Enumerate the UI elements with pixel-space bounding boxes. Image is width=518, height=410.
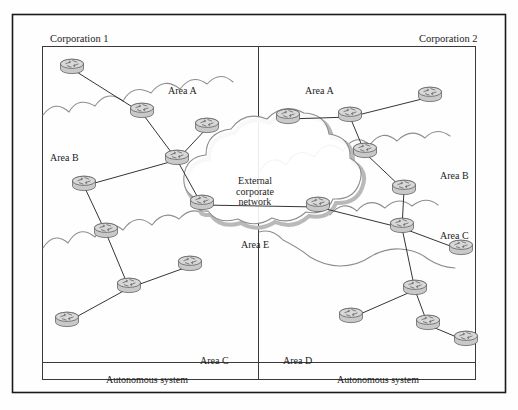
corporation-label-corp2: Corporation 2 xyxy=(419,33,478,44)
router-top xyxy=(340,308,363,317)
router-icon[interactable] xyxy=(61,59,84,73)
router-icon[interactable] xyxy=(277,109,300,123)
area-label-area-e: Area E xyxy=(241,239,269,250)
router-icon[interactable] xyxy=(340,308,363,322)
router-top xyxy=(419,87,442,96)
area-label-area-a-left: Area A xyxy=(168,85,197,96)
router-icon[interactable] xyxy=(131,103,154,117)
area-label-area-b-left: Area B xyxy=(50,152,79,163)
router-top xyxy=(391,218,414,227)
router-top xyxy=(61,59,84,68)
router-top xyxy=(196,118,219,127)
external-corporate-network-label: Externalcorporatenetwork xyxy=(236,176,274,208)
router-icon[interactable] xyxy=(391,218,414,232)
router-icon[interactable] xyxy=(455,331,478,345)
router-top xyxy=(56,312,79,321)
external-network-title-line: External xyxy=(236,176,274,187)
network-link xyxy=(350,97,430,117)
router-icon[interactable] xyxy=(419,87,442,101)
router-top xyxy=(73,176,96,185)
router-icon[interactable] xyxy=(73,176,96,190)
router-icon[interactable] xyxy=(191,195,214,209)
router-top xyxy=(277,109,300,118)
router-icon[interactable] xyxy=(307,197,330,211)
router-icon[interactable] xyxy=(393,180,416,194)
router-icon[interactable] xyxy=(118,278,141,292)
router-top xyxy=(393,180,416,189)
router-top xyxy=(404,280,427,289)
router-top xyxy=(455,331,478,340)
router-top xyxy=(166,150,189,159)
network-link xyxy=(318,207,402,228)
router-top xyxy=(131,103,154,112)
router-top xyxy=(417,315,440,324)
router-icon[interactable] xyxy=(179,256,202,270)
router-top xyxy=(307,197,330,206)
router-icon[interactable] xyxy=(56,312,79,326)
router-top xyxy=(339,107,362,116)
router-top xyxy=(354,143,377,152)
router-icon[interactable] xyxy=(95,223,118,237)
router-icon[interactable] xyxy=(166,150,189,164)
autonomous-system-label-as-right: Autonomous system xyxy=(337,374,419,385)
router-icon[interactable] xyxy=(417,315,440,329)
router-icon[interactable] xyxy=(404,280,427,294)
network-diagram-figure: Corporation 1Corporation 2Area AArea BAr… xyxy=(0,0,518,410)
area-label-area-b-right: Area B xyxy=(440,170,469,181)
area-label-area-d-right: Area D xyxy=(283,355,312,366)
area-label-area-a-right: Area A xyxy=(305,85,334,96)
area-label-area-c-left: Area C xyxy=(200,355,229,366)
area-label-area-c-right: Area C xyxy=(440,230,469,241)
external-network-title-line: network xyxy=(236,197,274,208)
router-icon[interactable] xyxy=(339,107,362,121)
network-link xyxy=(84,160,177,186)
router-icon[interactable] xyxy=(450,240,473,254)
router-top xyxy=(179,256,202,265)
cloud-left-b-c xyxy=(43,211,205,248)
corporation-label-corp1: Corporation 1 xyxy=(50,33,109,44)
router-top xyxy=(191,195,214,204)
router-icon[interactable] xyxy=(196,118,219,132)
router-top xyxy=(95,223,118,232)
autonomous-system-label-as-left: Autonomous system xyxy=(106,374,188,385)
router-top xyxy=(118,278,141,287)
router-top xyxy=(450,240,473,249)
router-icon[interactable] xyxy=(354,143,377,157)
